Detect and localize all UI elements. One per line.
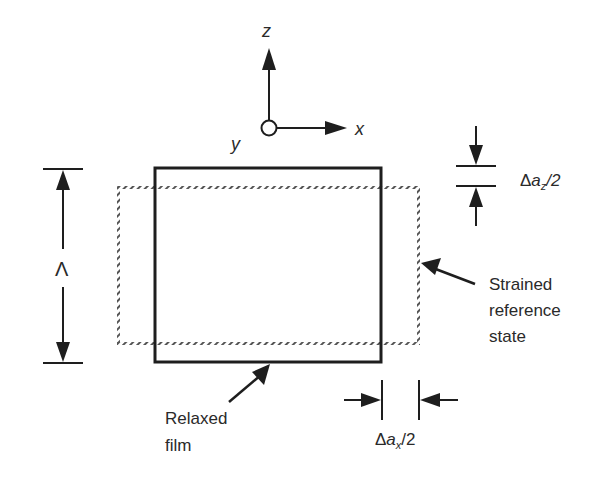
arrow-left-icon <box>420 393 440 407</box>
z-axis-label: z <box>261 21 271 41</box>
arrow-up-icon <box>56 170 70 190</box>
relaxed-film-rect <box>155 168 381 362</box>
pointer-arrow-icon <box>421 258 441 275</box>
arrow-right-icon <box>361 393 381 407</box>
strained-label-line2: reference <box>489 301 561 320</box>
x-axis-arrowhead-icon <box>325 121 347 135</box>
strained-annotation: Strained reference state <box>421 258 561 346</box>
lambda-dimension: Λ <box>43 169 83 363</box>
strained-label-line1: Strained <box>489 275 552 294</box>
y-axis-label: y <box>229 134 241 154</box>
delta-az-dimension: Δaz/2 <box>456 126 561 226</box>
relaxed-annotation: Relaxed film <box>165 364 270 455</box>
strained-label-line3: state <box>489 327 526 346</box>
relaxed-label-line2: film <box>165 436 191 455</box>
strain-diagram: z x y Λ Δaz/2 Δax/2 <box>0 0 600 478</box>
lambda-label: Λ <box>55 258 69 280</box>
coordinate-axes: z x y <box>229 21 365 154</box>
relaxed-label-line1: Relaxed <box>165 409 227 428</box>
arrow-up-icon <box>469 187 483 207</box>
delta-ax-label: Δax/2 <box>375 430 416 451</box>
z-axis-arrowhead-icon <box>262 48 276 70</box>
delta-az-label: Δaz/2 <box>520 171 561 192</box>
x-axis-label: x <box>354 119 365 139</box>
arrow-down-icon <box>469 145 483 165</box>
arrow-down-icon <box>56 342 70 362</box>
strained-reference-rect <box>117 186 420 345</box>
y-axis-out-of-page-icon <box>262 121 277 136</box>
delta-ax-dimension: Δax/2 <box>344 380 458 451</box>
